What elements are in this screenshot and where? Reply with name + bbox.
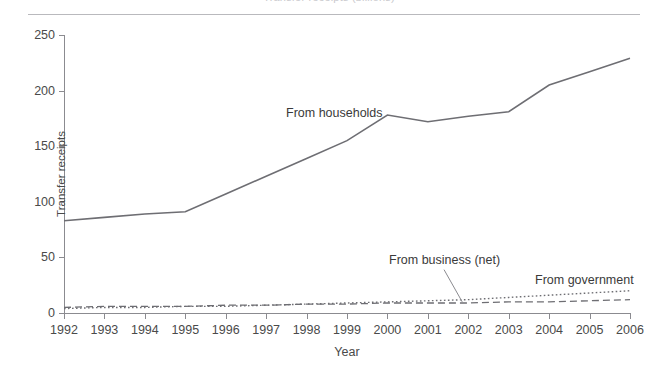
x-tick-mark <box>509 313 510 319</box>
x-tick-mark <box>104 313 105 319</box>
x-tick-label: 1995 <box>171 323 199 337</box>
x-tick-mark <box>549 313 550 319</box>
series-label-business: From business (net) <box>389 253 500 267</box>
figure-title: Transfer receipts (billions) <box>0 0 658 3</box>
y-tick-label: 200 <box>34 84 55 98</box>
line-from-government <box>64 291 630 309</box>
y-tick-mark <box>59 257 64 258</box>
x-tick-label: 2000 <box>374 323 402 337</box>
chart-figure: Transfer receipts (billions) From househ… <box>0 0 658 376</box>
x-tick-label: 2003 <box>495 323 523 337</box>
x-tick-label: 2001 <box>414 323 442 337</box>
series-canvas <box>64 35 630 313</box>
plot-area: From households From business (net) From… <box>64 35 630 313</box>
y-tick-label: 100 <box>34 195 55 209</box>
x-tick-label: 2004 <box>535 323 563 337</box>
x-tick-label: 1993 <box>91 323 119 337</box>
x-tick-mark <box>266 313 267 319</box>
y-tick-label: 0 <box>48 306 55 320</box>
x-tick-mark <box>145 313 146 319</box>
x-tick-label: 1994 <box>131 323 159 337</box>
y-tick-label: 250 <box>34 28 55 42</box>
x-tick-label: 1997 <box>252 323 280 337</box>
x-tick-mark <box>590 313 591 319</box>
x-tick-label: 2006 <box>616 323 644 337</box>
title-divider <box>28 14 640 15</box>
y-tick-mark <box>59 91 64 92</box>
x-tick-label: 1992 <box>50 323 78 337</box>
line-from-households <box>64 58 630 220</box>
y-tick-mark <box>59 202 64 203</box>
x-tick-mark <box>347 313 348 319</box>
x-axis-title: Year <box>64 345 630 359</box>
x-tick-mark <box>64 313 65 319</box>
x-tick-mark <box>185 313 186 319</box>
x-tick-label: 1998 <box>293 323 321 337</box>
series-label-government: From government <box>535 273 634 287</box>
x-tick-label: 1996 <box>212 323 240 337</box>
line-from-business <box>64 300 630 308</box>
x-tick-mark <box>630 313 631 319</box>
x-tick-mark <box>307 313 308 319</box>
x-tick-mark <box>226 313 227 319</box>
x-tick-label: 2005 <box>576 323 604 337</box>
x-tick-mark <box>468 313 469 319</box>
series-label-households: From households <box>286 106 383 120</box>
y-axis-title: Transfer receipts <box>55 131 67 217</box>
y-tick-mark <box>59 146 64 147</box>
x-tick-label: 1999 <box>333 323 361 337</box>
y-tick-label: 50 <box>41 250 55 264</box>
y-tick-label: 150 <box>34 139 55 153</box>
x-tick-mark <box>428 313 429 319</box>
x-tick-label: 2002 <box>454 323 482 337</box>
y-tick-mark <box>59 35 64 36</box>
x-tick-mark <box>387 313 388 319</box>
